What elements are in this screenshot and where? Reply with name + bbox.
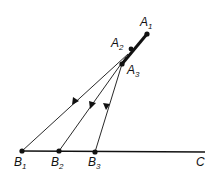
point-b3 [92,149,97,154]
segment-a1-a3 [122,34,147,64]
geometry-diagram: A1 A2 A3 B1 B2 B3 C [0,0,218,179]
line-b1-c [22,151,205,152]
point-b1 [19,148,24,153]
arrow-icon [89,101,96,109]
label-b3: B3 [88,155,101,171]
point-a1 [144,31,149,36]
ray-a3-b3 [95,64,122,152]
label-b1: B1 [14,155,26,171]
point-a3 [119,61,124,66]
label-a3: A3 [126,63,140,79]
label-a2: A2 [110,36,124,52]
point-a2 [129,47,134,52]
label-b2: B2 [51,155,64,171]
label-a1: A1 [139,15,152,31]
label-c: C [196,155,205,169]
arrow-icon [72,97,79,105]
point-b2 [56,148,61,153]
